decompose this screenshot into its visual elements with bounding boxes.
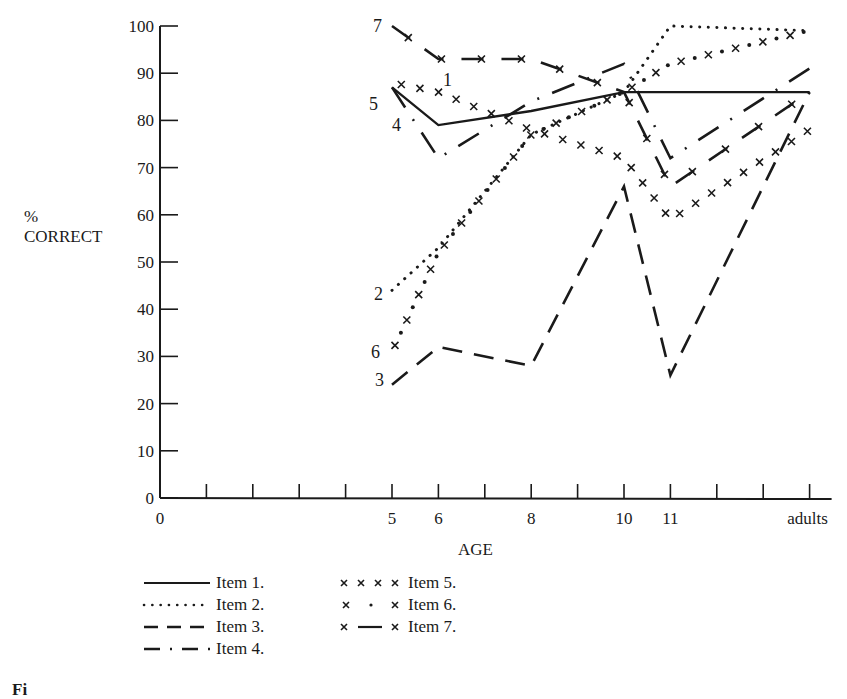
y-tick-label: 100 [129, 17, 155, 36]
legend-label: Item 6. [408, 594, 456, 616]
series-label-4: 4 [392, 115, 401, 135]
legend-right: Item 5. Item 6. Item 7. [338, 572, 456, 638]
figure-caption-partial: Fi [12, 680, 27, 699]
dash-dot-line-swatch-icon [142, 644, 212, 654]
series-item-6 [391, 30, 805, 349]
y-tick-label: 10 [137, 442, 154, 461]
x-tick-label: 6 [434, 509, 443, 528]
y-tick-label: 50 [137, 253, 154, 272]
series-item-1 [392, 87, 810, 125]
legend-label: Item 4. [216, 638, 264, 660]
series-item-2 [392, 26, 810, 290]
x-tick-label: adults [787, 509, 828, 528]
y-tick-label: 60 [137, 206, 154, 225]
y-axis-label-word: CORRECT [24, 227, 102, 247]
dashed-line-swatch-icon [142, 622, 212, 632]
legend-label: Item 2. [216, 594, 264, 616]
cross-dash-swatch-icon [338, 621, 404, 633]
cross-series-swatch-icon [338, 577, 404, 589]
legend-item-3: Item 3. [142, 616, 264, 638]
legend-label: Item 7. [408, 616, 456, 638]
x-tick-label: 0 [156, 509, 165, 528]
legend-item-1: Item 1. [142, 572, 264, 594]
legend-label: Item 5. [408, 572, 456, 594]
y-tick-label: 20 [137, 395, 154, 414]
legend-left: Item 1. Item 2. Item 3. Item 4. [142, 572, 264, 660]
legend-label: Item 3. [216, 616, 264, 638]
x-tick-label: 11 [662, 509, 678, 528]
y-tick-label: 30 [137, 347, 154, 366]
x-tick-label: 8 [527, 509, 536, 528]
y-axis-label-percent: % [24, 207, 102, 227]
legend-item-5: Item 5. [338, 572, 456, 594]
x-tick-label: 10 [616, 509, 633, 528]
x-tick-label: 5 [388, 509, 397, 528]
legend-label: Item 1. [216, 572, 264, 594]
series-label-5: 5 [369, 94, 378, 114]
series-label-6: 6 [371, 342, 380, 362]
series-label-7: 7 [373, 16, 382, 36]
y-tick-label: 40 [137, 300, 154, 319]
cross-dot-swatch-icon [338, 599, 404, 611]
legend-item-6: Item 6. [338, 594, 456, 616]
series-item-4 [392, 64, 810, 158]
series-label-3: 3 [375, 370, 384, 390]
y-tick-label: 80 [137, 111, 154, 130]
legend-item-2: Item 2. [142, 594, 264, 616]
series-label-1: 1 [443, 70, 452, 90]
y-tick-label: 90 [137, 64, 154, 83]
legend-item-7: Item 7. [338, 616, 456, 638]
dotted-line-swatch-icon [142, 600, 212, 610]
y-tick-label: 0 [146, 489, 155, 508]
axes: 010203040506070809010005681011adults [129, 17, 832, 528]
x-axis-label: AGE [458, 540, 493, 560]
series-label-2: 2 [374, 284, 383, 304]
legend-item-4: Item 4. [142, 638, 264, 660]
series-item-7 [392, 26, 810, 187]
solid-line-swatch-icon [142, 578, 212, 588]
y-axis-label: % CORRECT [24, 207, 102, 247]
y-tick-label: 70 [137, 159, 154, 178]
